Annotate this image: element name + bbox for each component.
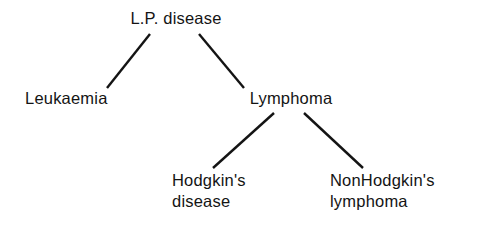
- edge-lymphoma-to-hodgkins: [213, 113, 274, 168]
- edge-lymphoma-to-nonhodgkins: [304, 113, 363, 168]
- edge-root-to-leukaemia: [107, 34, 150, 88]
- edge-root-to-lymphoma: [199, 34, 244, 88]
- node-lymphoma: Lymphoma: [250, 88, 333, 109]
- node-lp-disease: L.P. disease: [130, 8, 221, 29]
- node-leukaemia: Leukaemia: [25, 88, 108, 109]
- node-nonhodgkins-lymphoma: NonHodgkin's lymphoma: [330, 170, 435, 212]
- node-hodgkins-disease: Hodgkin's disease: [172, 170, 246, 212]
- hierarchy-diagram: L.P. disease Leukaemia Lymphoma Hodgkin'…: [0, 0, 477, 239]
